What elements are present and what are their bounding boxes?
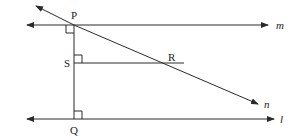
geometry-diagram: P S R Q m n l	[0, 0, 298, 140]
label-s: S	[64, 57, 70, 69]
label-q: Q	[70, 124, 78, 136]
label-line-m: m	[276, 19, 284, 31]
label-p: P	[71, 9, 77, 21]
right-angle-p-icon	[66, 25, 74, 33]
right-angle-s-icon	[74, 55, 82, 63]
line-n-upper	[36, 6, 74, 25]
label-line-l: l	[280, 113, 283, 125]
label-r: R	[168, 51, 176, 63]
right-angle-q-icon	[74, 111, 82, 119]
label-line-n: n	[264, 98, 270, 110]
line-n-lower	[74, 25, 258, 104]
